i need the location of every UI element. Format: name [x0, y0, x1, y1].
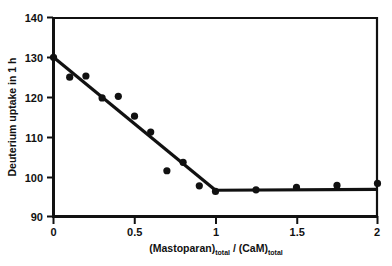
- x-tick-label-2: 2: [374, 226, 380, 238]
- data-point: [196, 182, 203, 189]
- chart-figure: 140 130 120 110 100 90 0 0.5 1 1.5 2 (Ma…: [0, 0, 392, 266]
- x-axis-title-separator: /: [230, 242, 239, 254]
- x-axis-title-sub1: total: [215, 249, 230, 256]
- data-point: [147, 129, 154, 136]
- y-tick-label-100: 100: [25, 172, 43, 184]
- x-tick-label-1: 1: [213, 226, 219, 238]
- fit-lines-group: [54, 57, 378, 190]
- data-point: [115, 93, 122, 100]
- x-tick-label-1-5: 1.5: [290, 226, 305, 238]
- plot-frame: [52, 17, 378, 217]
- data-point: [50, 54, 57, 61]
- x-axis-tick-labels: 0 0.5 1 1.5 2: [50, 226, 380, 238]
- y-axis-title: Deuterium uptake in 1 h: [6, 57, 18, 176]
- x-tick-label-0: 0: [50, 226, 56, 238]
- y-tick-label-90: 90: [31, 211, 43, 223]
- y-tick-label-130: 130: [25, 52, 43, 64]
- data-point: [82, 72, 89, 79]
- deuterium-uptake-scatter-chart: 140 130 120 110 100 90 0 0.5 1 1.5 2 (Ma…: [0, 0, 392, 266]
- x-tick-label-0-5: 0.5: [127, 226, 142, 238]
- y-tick-label-110: 110: [25, 132, 43, 144]
- data-points-group: [50, 54, 381, 195]
- x-axis-title-sub2: total: [268, 249, 283, 256]
- y-tick-label-140: 140: [25, 12, 43, 24]
- y-tick-label-120: 120: [25, 92, 43, 104]
- data-point: [66, 74, 73, 81]
- x-axis-title-text: (Mastoparan)total / (CaM)total: [149, 242, 282, 256]
- data-point: [163, 167, 170, 174]
- fit-line-descending: [54, 57, 216, 190]
- data-point: [293, 184, 300, 191]
- data-point: [374, 180, 381, 187]
- y-axis-tick-labels: 140 130 120 110 100 90: [25, 12, 43, 223]
- data-point: [333, 182, 340, 189]
- data-point: [180, 159, 187, 166]
- data-point: [252, 186, 259, 193]
- data-point: [99, 94, 106, 101]
- y-axis-title-text: Deuterium uptake in 1 h: [6, 57, 18, 176]
- data-point: [212, 188, 219, 195]
- x-axis-title-main2: (CaM): [239, 242, 268, 254]
- x-axis-title-main1: (Mastoparan): [149, 242, 215, 254]
- x-axis-title: (Mastoparan)total / (CaM)total: [149, 242, 282, 256]
- data-point: [131, 113, 138, 120]
